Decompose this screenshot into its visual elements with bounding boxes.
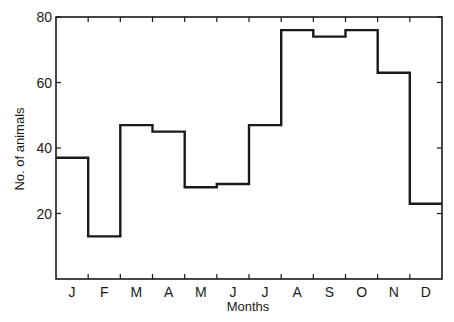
step-histogram-chart: 20406080 JFMAMJJASOND Months No. of anim… [0, 0, 454, 322]
x-tick-label: A [164, 284, 174, 300]
x-tick-label: M [195, 284, 207, 300]
x-tick-label: M [131, 284, 143, 300]
x-tick-label: F [100, 284, 109, 300]
x-tick-label: J [262, 284, 269, 300]
x-tick-label: O [356, 284, 367, 300]
x-axis-title: Months [227, 299, 270, 314]
x-tick-label: A [293, 284, 303, 300]
x-tick-label: D [421, 284, 431, 300]
y-axis-title: No. of animals [12, 107, 27, 191]
histogram-step-line [56, 30, 442, 236]
y-tick-label: 80 [36, 9, 52, 25]
y-tick-label: 60 [36, 75, 52, 91]
x-tick-label: J [69, 284, 76, 300]
y-axis-ticks: 20406080 [36, 9, 442, 222]
x-tick-label: S [325, 284, 334, 300]
x-tick-label: N [389, 284, 399, 300]
y-tick-label: 20 [36, 206, 52, 222]
x-tick-label: J [229, 284, 236, 300]
y-tick-label: 40 [36, 140, 52, 156]
